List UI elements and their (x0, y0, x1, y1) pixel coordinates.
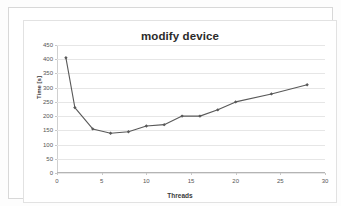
x-tick-label: 30 (322, 178, 329, 184)
outer-border: modify device Time [s] Threads 050100150… (8, 7, 333, 199)
chart-screenshot: modify device Time [s] Threads 050100150… (0, 0, 341, 206)
plot-area: 050100150200250300350400450 051015202530 (57, 45, 325, 173)
y-tick-label: 450 (43, 42, 53, 48)
x-tick-mark (146, 173, 147, 175)
y-tick-label: 350 (43, 70, 53, 76)
series-line (66, 58, 307, 133)
x-tick-mark (57, 173, 58, 175)
x-tick-label: 10 (143, 178, 150, 184)
data-point (145, 124, 148, 127)
series-markers (64, 56, 309, 135)
data-point (305, 83, 308, 86)
chart-container: modify device Time [s] Threads 050100150… (23, 20, 337, 203)
data-point (270, 92, 273, 95)
data-point (180, 114, 183, 117)
data-point (127, 130, 130, 133)
data-series (57, 45, 325, 173)
y-tick-label: 150 (43, 127, 53, 133)
data-point (109, 131, 112, 134)
x-tick-label: 25 (277, 178, 284, 184)
x-tick-mark (280, 173, 281, 175)
data-point (216, 108, 219, 111)
data-point (198, 114, 201, 117)
x-tick-label: 5 (100, 178, 103, 184)
chart-title: modify device (24, 30, 336, 42)
y-tick-label: 0 (50, 170, 53, 176)
x-tick-label: 15 (188, 178, 195, 184)
x-axis-label: Threads (24, 192, 336, 199)
y-tick-label: 50 (46, 156, 53, 162)
y-axis-label: Time [s] (36, 76, 42, 99)
x-tick-label: 20 (232, 178, 239, 184)
y-tick-label: 100 (43, 142, 53, 148)
x-tick-mark (236, 173, 237, 175)
y-tick-label: 400 (43, 56, 53, 62)
y-tick-label: 300 (43, 85, 53, 91)
x-tick-mark (102, 173, 103, 175)
data-point (234, 100, 237, 103)
y-tick-label: 250 (43, 99, 53, 105)
y-tick-label: 200 (43, 113, 53, 119)
x-tick-label: 0 (55, 178, 58, 184)
data-point (64, 56, 67, 59)
x-tick-mark (191, 173, 192, 175)
x-tick-mark (325, 173, 326, 175)
data-point (163, 123, 166, 126)
